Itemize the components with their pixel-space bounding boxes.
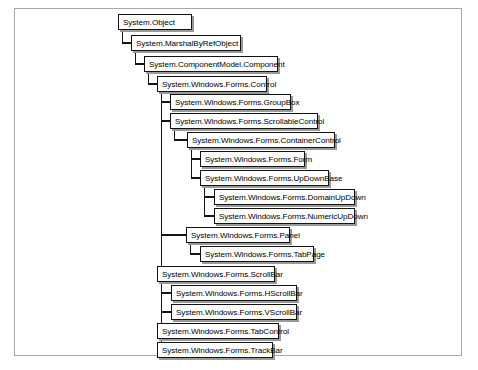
connector-spine-updownbase <box>204 186 205 216</box>
connector-branch-updownbase-numericupdown <box>204 215 214 216</box>
class-node-marshalbyrefobject[interactable]: System.MarshalByRefObject <box>131 35 241 51</box>
connector-branch-scrollbar-hscrollbar <box>161 292 171 293</box>
connector-branch-scrollablecontrol-containercontrol <box>174 139 187 140</box>
connector-branch-scrollbar-vscrollbar <box>161 311 171 312</box>
class-node-hscrollbar[interactable]: System.Windows.Forms.HScrollBar <box>171 285 297 301</box>
connector-spine-object <box>122 30 123 43</box>
class-node-containercontrol[interactable]: System.Windows.Forms.ContainerControl <box>187 132 335 148</box>
connector-branch-component-control <box>148 83 157 84</box>
connector-branch-updownbase-domainupdown <box>204 196 214 197</box>
connector-branch-containercontrol-updownbase <box>191 177 200 178</box>
class-node-scrollbar[interactable]: System.Windows.Forms.ScrollBar <box>157 266 275 282</box>
class-node-vscrollbar[interactable]: System.Windows.Forms.VScrollBar <box>171 304 297 320</box>
class-node-tabcontrol[interactable]: System.Windows.Forms.TabControl <box>157 323 279 339</box>
class-node-tabpage[interactable]: System.Windows.Forms.TabPage <box>200 246 314 262</box>
class-node-updownbase[interactable]: System.Windows.Forms.UpDownBase <box>200 170 329 186</box>
connector-branch-control-scrollablecontrol <box>161 120 170 121</box>
connector-spine-containercontrol <box>191 148 192 178</box>
class-node-scrollablecontrol[interactable]: System.Windows.Forms.ScrollableControl <box>170 113 318 129</box>
class-node-form[interactable]: System.Windows.Forms.Form <box>200 151 305 167</box>
diagram-canvas: System.ObjectSystem.MarshalByRefObjectSy… <box>0 0 478 370</box>
connector-branch-marshalbyrefobject-component <box>135 63 144 64</box>
class-node-panel[interactable]: System.Windows.Forms.Panel <box>186 227 290 243</box>
connector-branch-control-panel <box>161 234 186 235</box>
connector-spine-scrollablecontrol <box>174 129 175 140</box>
connector-branch-panel-tabpage <box>190 253 200 254</box>
connector-spine-marshalbyrefobject <box>135 51 136 64</box>
connector-spine-component <box>148 72 149 84</box>
connector-branch-object-marshalbyrefobject <box>122 42 131 43</box>
class-node-numericupdown[interactable]: System.Windows.Forms.NumericUpDown <box>214 208 355 224</box>
class-node-trackbar[interactable]: System.Windows.Forms.TrackBar <box>157 342 273 358</box>
class-node-control[interactable]: System.Windows.Forms.Control <box>157 76 267 92</box>
class-node-groupbox[interactable]: System.Windows.Forms.GroupBox <box>170 94 291 110</box>
connector-spine-panel <box>190 243 191 254</box>
class-node-object[interactable]: System.Object <box>118 14 192 30</box>
class-node-domainupdown[interactable]: System.Windows.Forms.DomainUpDown <box>214 189 355 205</box>
connector-spine-scrollbar <box>161 282 162 312</box>
class-node-component[interactable]: System.ComponentModel.Component <box>144 56 278 72</box>
connector-branch-containercontrol-form <box>191 158 200 159</box>
connector-branch-control-groupbox <box>161 101 170 102</box>
class-hierarchy-figure: System.ObjectSystem.MarshalByRefObjectSy… <box>0 0 478 370</box>
